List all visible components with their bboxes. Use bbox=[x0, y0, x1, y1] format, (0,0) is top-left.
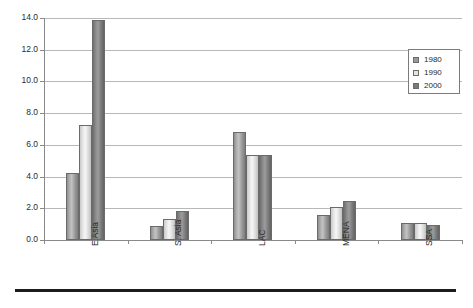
bar-chart-figure: 0.02.04.06.08.010.012.014.0 E AsiaS. Asi… bbox=[0, 0, 473, 308]
chart-legend: 1980 1990 2000 bbox=[408, 49, 460, 94]
y-axis-tick-label: 0.0 bbox=[8, 235, 38, 244]
bar-group-e-asia bbox=[44, 18, 128, 240]
x-axis-tick-mark bbox=[211, 240, 212, 244]
bar-groups bbox=[44, 18, 462, 240]
x-axis-tick-mark bbox=[462, 240, 463, 244]
x-axis-tick-mark bbox=[378, 240, 379, 244]
bottom-divider-rule bbox=[15, 289, 456, 292]
x-axis-tick-mark bbox=[128, 240, 129, 244]
x-axis-label-e-asia: E Asia bbox=[90, 222, 100, 246]
legend-swatch-icon-1980 bbox=[413, 57, 419, 63]
y-axis-tick-label: 14.0 bbox=[8, 13, 38, 22]
bar-group-lac bbox=[211, 18, 295, 240]
legend-label-1990: 1990 bbox=[424, 68, 442, 77]
bar-group-mena bbox=[295, 18, 379, 240]
bar-1980-mena bbox=[317, 215, 330, 240]
legend-swatch-icon-2000 bbox=[413, 83, 419, 89]
y-axis-tick-label: 8.0 bbox=[8, 108, 38, 117]
legend-label-2000: 2000 bbox=[424, 81, 442, 90]
x-axis-tick-mark bbox=[295, 240, 296, 244]
bar-group-s-asia bbox=[128, 18, 212, 240]
legend-item-1990: 1990 bbox=[413, 66, 459, 79]
bar-1980-s-asia bbox=[150, 226, 163, 240]
legend-item-1980: 1980 bbox=[413, 53, 459, 66]
bar-2000-e-asia bbox=[92, 20, 105, 240]
x-axis-tick-mark bbox=[44, 240, 45, 244]
y-axis-tick-label: 12.0 bbox=[8, 45, 38, 54]
bar-1980-lac bbox=[233, 132, 246, 240]
legend-swatch-icon-1990 bbox=[413, 70, 419, 76]
bar-1990-lac bbox=[246, 155, 259, 240]
y-axis-tick-label: 10.0 bbox=[8, 76, 38, 85]
bar-2000-lac bbox=[259, 155, 272, 240]
bar-1980-e-asia bbox=[66, 173, 79, 240]
x-axis-label-ssa: SSA bbox=[424, 229, 434, 246]
x-axis-line bbox=[44, 240, 462, 241]
x-axis-label-lac: LAC bbox=[257, 229, 267, 246]
x-axis-label-mena: MENA bbox=[341, 221, 351, 246]
bar-1980-ssa bbox=[401, 223, 414, 240]
x-axis-label-s-asia: S. Asia bbox=[173, 220, 183, 246]
y-axis-tick-label: 4.0 bbox=[8, 172, 38, 181]
y-axis-tick-label: 6.0 bbox=[8, 140, 38, 149]
legend-item-2000: 2000 bbox=[413, 79, 459, 92]
legend-label-1980: 1980 bbox=[424, 55, 442, 64]
y-axis-tick-label: 2.0 bbox=[8, 203, 38, 212]
